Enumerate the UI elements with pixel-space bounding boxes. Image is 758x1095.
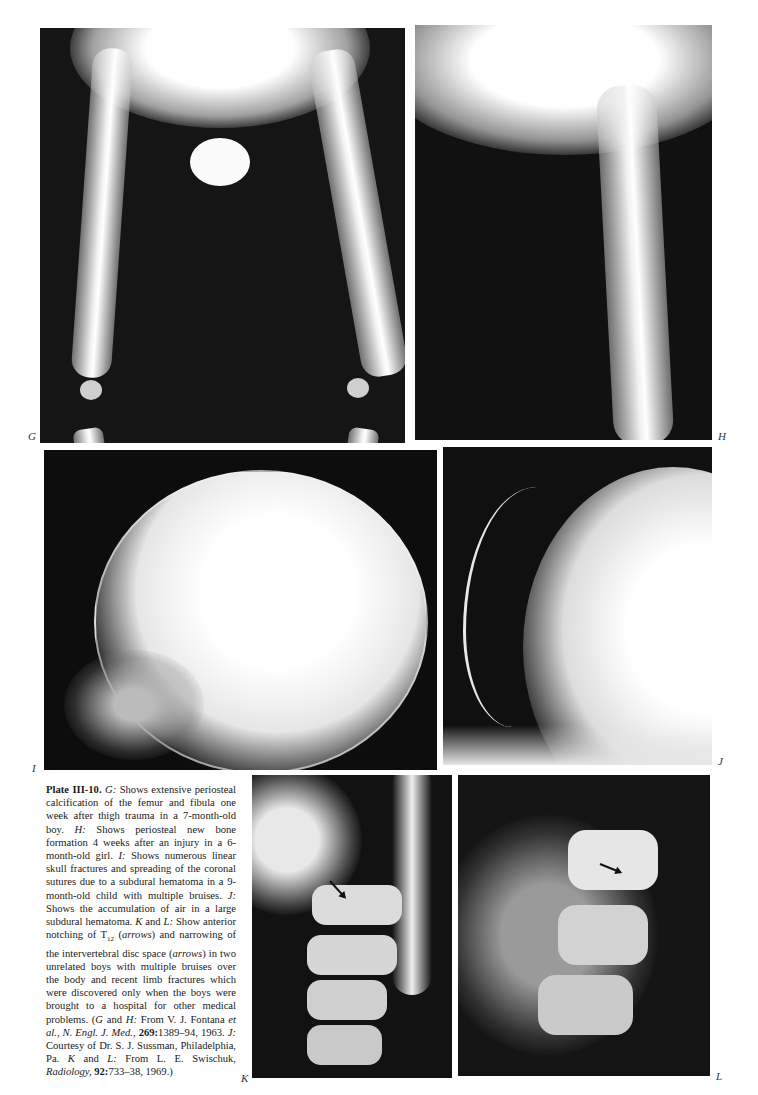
panel-label-h: H <box>718 430 726 442</box>
caption-text: From L. E. Swischuk, <box>117 1053 236 1064</box>
caption-text: From V. J. Fontana <box>137 1014 228 1025</box>
caption-title: Plate III-10. <box>46 784 105 795</box>
caption-text: H: <box>75 824 86 835</box>
xray-panel-i <box>44 450 437 770</box>
panel-label-i: I <box>32 762 36 774</box>
caption-text: and <box>142 916 163 927</box>
caption-text: 269: <box>139 1027 158 1038</box>
caption-text: arrows <box>122 929 152 940</box>
caption-text: H: <box>126 1014 137 1025</box>
xray-panel-k <box>252 775 452 1078</box>
caption-text: 12 <box>107 935 114 943</box>
panel-label-j: J <box>718 755 723 767</box>
caption-text: G: <box>105 784 116 795</box>
caption-text: K <box>68 1053 75 1064</box>
xray-panel-j <box>443 447 712 765</box>
xray-panel-l <box>458 775 710 1076</box>
caption-text: L: <box>164 916 173 927</box>
caption-text: L: <box>107 1053 116 1064</box>
panel-label-l: L <box>716 1070 722 1082</box>
caption-text: arrows <box>173 948 203 959</box>
caption-text: and <box>75 1053 107 1064</box>
caption-text: 733–38, 1969.) <box>108 1066 172 1077</box>
caption-text: 1389–94, 1963. <box>158 1027 228 1038</box>
caption-text: 92: <box>94 1066 108 1077</box>
xray-panel-h <box>415 25 712 440</box>
caption-text: G <box>95 1014 103 1025</box>
caption-text: J: <box>228 890 236 901</box>
xray-panel-g <box>40 28 405 443</box>
panel-label-k: K <box>241 1072 248 1084</box>
caption-text: and <box>103 1014 126 1025</box>
caption-text: J: <box>228 1027 236 1038</box>
caption-text: ( <box>114 929 122 940</box>
panel-label-g: G <box>28 430 36 442</box>
plate-caption: Plate III-10. G: Shows extensive periost… <box>46 783 236 1079</box>
caption-text: Radiology, <box>46 1066 92 1077</box>
